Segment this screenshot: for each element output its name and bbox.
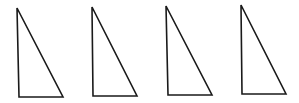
right-triangle-1 xyxy=(17,8,63,97)
triangles-diagram xyxy=(0,0,299,103)
right-triangle-3 xyxy=(166,6,212,95)
right-triangle-2 xyxy=(92,7,137,96)
right-triangle-4 xyxy=(241,5,286,94)
